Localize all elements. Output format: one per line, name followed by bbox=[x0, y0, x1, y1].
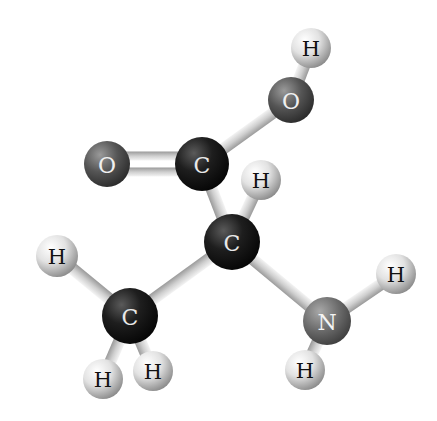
atom-c-c-methyl: C bbox=[102, 288, 158, 344]
atom-h-h-alpha: H bbox=[241, 160, 281, 200]
atom-o-o-hydroxyl: O bbox=[268, 77, 314, 123]
atom-label: O bbox=[98, 153, 116, 178]
atom-h-h-me-br: H bbox=[133, 351, 173, 391]
atom-label: H bbox=[296, 359, 314, 383]
atom-label: H bbox=[387, 263, 405, 287]
molecule-diagram: HOOCHCHCHHNHH bbox=[0, 0, 437, 421]
atom-label: H bbox=[144, 360, 162, 384]
atom-label: N bbox=[317, 310, 336, 335]
alanine-ball-and-stick-model: HOOCHCHCHHNHH bbox=[0, 0, 437, 421]
atom-h-h-n-bottom: H bbox=[285, 350, 325, 390]
atom-c-c-alpha: C bbox=[204, 214, 260, 270]
atom-label: C bbox=[194, 153, 211, 178]
atom-h-h-me-bl: H bbox=[83, 359, 123, 399]
atom-label: H bbox=[302, 37, 320, 61]
atom-label: H bbox=[252, 169, 270, 193]
atom-c-c-carboxyl: C bbox=[175, 137, 229, 191]
atom-n-n-amine: N bbox=[303, 297, 351, 345]
atom-label: H bbox=[48, 245, 66, 269]
atom-label: O bbox=[282, 89, 300, 114]
atom-h-h-me-left: H bbox=[36, 235, 78, 277]
atom-label: C bbox=[122, 305, 139, 330]
atom-label: C bbox=[224, 231, 241, 256]
atom-label: H bbox=[94, 368, 112, 392]
atom-h-h-oh: H bbox=[291, 28, 331, 68]
atom-o-o-carbonyl: O bbox=[84, 141, 130, 187]
atom-h-h-n-right: H bbox=[376, 254, 416, 294]
